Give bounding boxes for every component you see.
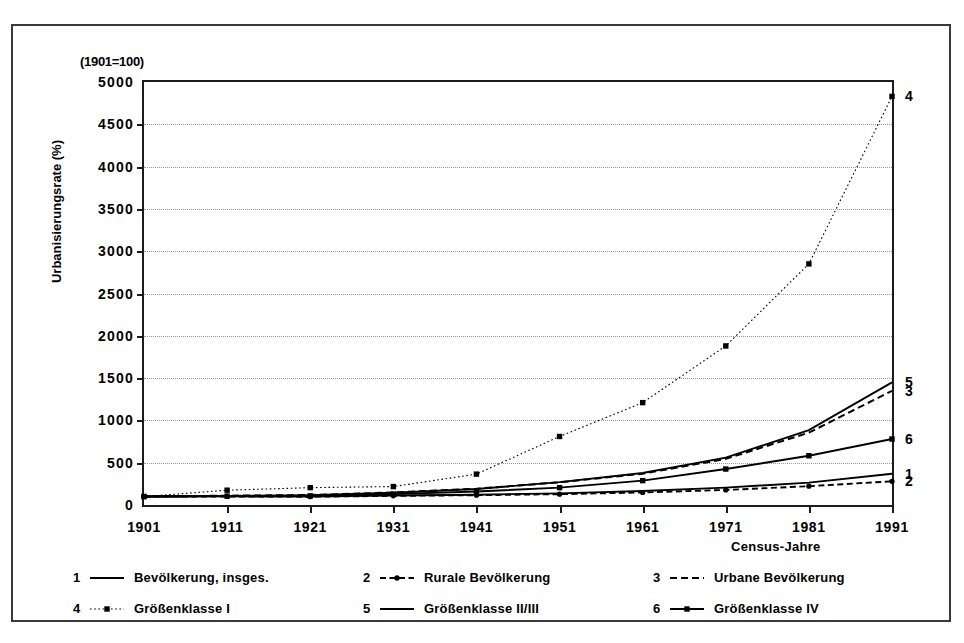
chart-legend: 1Bevölkerung, insges.2Rurale Bevölkerung… bbox=[73, 562, 933, 624]
legend-row: 4Größenklasse I5Größenklasse II/III6Größ… bbox=[73, 593, 933, 624]
x-tick-label: 1901 bbox=[127, 519, 161, 535]
series-marker-2 bbox=[806, 484, 811, 489]
series-marker-2 bbox=[640, 490, 645, 495]
series-marker-6 bbox=[640, 478, 645, 483]
legend-item-number: 1 bbox=[73, 570, 86, 585]
series-marker-4 bbox=[391, 484, 396, 489]
legend-item-3[interactable]: 3Urbane Bevölkerung bbox=[653, 570, 845, 585]
x-tick-label: 1971 bbox=[709, 519, 743, 535]
series-line-4 bbox=[144, 96, 892, 496]
series-marker-6 bbox=[723, 466, 728, 471]
y-tick-mark bbox=[137, 167, 144, 169]
x-tick-mark bbox=[393, 505, 395, 513]
series-end-label-4: 4 bbox=[905, 88, 913, 104]
figure-frame: (1901=100) Urbanisierungsrate (%) 050010… bbox=[11, 24, 951, 622]
series-marker-6 bbox=[391, 491, 396, 496]
legend-item-4[interactable]: 4Größenklasse I bbox=[73, 601, 230, 616]
x-tick-label: 1961 bbox=[626, 519, 660, 535]
y-tick-label: 0 bbox=[125, 497, 134, 513]
legend-row: 1Bevölkerung, insges.2Rurale Bevölkerung… bbox=[73, 562, 933, 593]
y-tick-label: 3000 bbox=[98, 243, 134, 259]
series-marker-4 bbox=[474, 471, 479, 476]
legend-swatch-dashed-icon bbox=[670, 571, 704, 585]
x-tick-mark bbox=[476, 505, 478, 513]
x-tick-mark bbox=[560, 505, 562, 513]
series-marker-2 bbox=[723, 487, 728, 492]
x-tick-mark bbox=[892, 505, 894, 513]
series-end-label-6: 6 bbox=[905, 431, 913, 447]
legend-swatch-solid-icon bbox=[670, 602, 704, 616]
y-axis-title: Urbanisierungsrate (%) bbox=[49, 117, 64, 307]
legend-item-number: 2 bbox=[363, 570, 376, 585]
y-tick-label: 5000 bbox=[98, 74, 134, 90]
series-marker-6 bbox=[224, 493, 229, 498]
series-marker-4 bbox=[308, 485, 313, 490]
x-tick-label: 1991 bbox=[875, 519, 909, 535]
y-tick-mark bbox=[137, 124, 144, 126]
series-line-6 bbox=[144, 439, 892, 497]
series-marker-4 bbox=[723, 343, 728, 348]
legend-swatch-solid-icon bbox=[380, 602, 414, 616]
series-line-3 bbox=[144, 391, 892, 497]
legend-item-number: 4 bbox=[73, 601, 86, 616]
x-tick-label: 1911 bbox=[211, 519, 244, 535]
x-tick-label: 1931 bbox=[377, 519, 411, 535]
y-tick-label: 3500 bbox=[98, 201, 134, 217]
legend-swatch-dashed-dot-icon bbox=[380, 571, 414, 585]
x-tick-mark bbox=[310, 505, 312, 513]
series-marker-4 bbox=[806, 261, 811, 266]
series-line-5 bbox=[144, 382, 892, 496]
series-marker-2 bbox=[557, 492, 562, 497]
x-axis-title: Census-Jahre bbox=[731, 539, 821, 554]
y-tick-label: 4000 bbox=[98, 159, 134, 175]
legend-swatch-dotted-icon bbox=[90, 602, 124, 616]
y-tick-label: 4500 bbox=[98, 116, 134, 132]
legend-item-label: Rurale Bevölkerung bbox=[424, 570, 550, 585]
series-marker-2 bbox=[889, 479, 894, 484]
series-marker-4 bbox=[224, 487, 229, 492]
x-tick-mark bbox=[643, 505, 645, 513]
legend-item-number: 3 bbox=[653, 570, 666, 585]
series-marker-6 bbox=[474, 489, 479, 494]
x-tick-label: 1951 bbox=[543, 519, 577, 535]
legend-item-label: Größenklasse IV bbox=[714, 601, 819, 616]
y-tick-mark bbox=[137, 294, 144, 296]
x-tick-label: 1941 bbox=[460, 519, 494, 535]
y-tick-label: 2500 bbox=[98, 286, 134, 302]
x-tick-mark bbox=[726, 505, 728, 513]
series-marker-6 bbox=[889, 436, 894, 441]
series-marker-4 bbox=[640, 400, 645, 405]
x-tick-label: 1981 bbox=[792, 519, 826, 535]
legend-item-1[interactable]: 1Bevölkerung, insges. bbox=[73, 570, 269, 585]
legend-item-number: 5 bbox=[363, 601, 376, 616]
legend-item-6[interactable]: 6Größenklasse IV bbox=[653, 601, 819, 616]
series-end-label-5: 5 bbox=[905, 374, 913, 390]
series-marker-4 bbox=[889, 94, 894, 99]
y-tick-mark bbox=[137, 336, 144, 338]
series-marker-6 bbox=[557, 485, 562, 490]
y-tick-label: 1500 bbox=[98, 370, 134, 386]
y-tick-mark bbox=[137, 378, 144, 380]
y-tick-label: 500 bbox=[107, 455, 134, 471]
x-tick-mark bbox=[227, 505, 229, 513]
y-tick-label: 2000 bbox=[98, 328, 134, 344]
legend-item-2[interactable]: 2Rurale Bevölkerung bbox=[363, 570, 550, 585]
series-marker-6 bbox=[806, 453, 811, 458]
legend-item-label: Größenklasse II/III bbox=[424, 601, 539, 616]
legend-item-number: 6 bbox=[653, 601, 666, 616]
legend-item-5[interactable]: 5Größenklasse II/III bbox=[363, 601, 539, 616]
y-tick-mark bbox=[137, 251, 144, 253]
plot-area: 0500100015002000250030003500400045005000… bbox=[142, 80, 894, 507]
legend-item-label: Urbane Bevölkerung bbox=[714, 570, 845, 585]
series-marker-6 bbox=[141, 494, 146, 499]
x-tick-label: 1921 bbox=[293, 519, 327, 535]
y-tick-label: 1000 bbox=[98, 412, 134, 428]
series-marker-6 bbox=[308, 493, 313, 498]
series-marker-4 bbox=[557, 434, 562, 439]
y-tick-mark bbox=[137, 463, 144, 465]
y-tick-mark bbox=[137, 209, 144, 211]
legend-item-label: Bevölkerung, insges. bbox=[134, 570, 269, 585]
series-end-label-2: 2 bbox=[905, 473, 913, 489]
y-tick-mark bbox=[137, 420, 144, 422]
axis-base-note: (1901=100) bbox=[80, 54, 144, 69]
